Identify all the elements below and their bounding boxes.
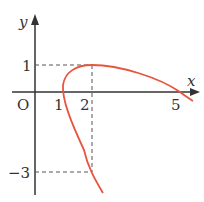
y-axis-arrow-icon [31, 14, 39, 25]
y-tick-1: 1 [22, 57, 32, 75]
x-tick-5: 5 [171, 96, 181, 114]
y-axis-label: y [18, 13, 28, 31]
graph: y x O 1 2 5 1 −3 [0, 0, 204, 202]
origin-label: O [17, 96, 29, 114]
x-axis-label: x [187, 72, 196, 90]
y-tick-neg3: −3 [8, 164, 30, 182]
curve [63, 65, 193, 193]
x-tick-1: 1 [54, 96, 64, 114]
x-tick-2: 2 [80, 96, 90, 114]
